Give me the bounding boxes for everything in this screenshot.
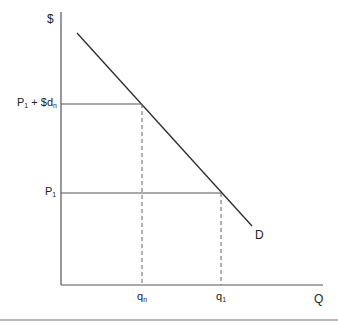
quantity-label-q1-sub: 1	[222, 296, 226, 303]
quantity-label-q1: q1	[216, 291, 226, 302]
price-label-low-sub: 1	[52, 191, 56, 198]
quantity-label-qn-sub: n	[143, 296, 147, 303]
x-axis-label: Q	[314, 293, 323, 305]
price-label-low: P1	[45, 186, 56, 197]
y-axis-label: $	[47, 13, 54, 25]
quantity-label-qn: qn	[137, 291, 147, 302]
demand-diagram	[0, 0, 338, 323]
price-label-high: P1 + $dn	[17, 97, 57, 108]
demand-curve	[77, 33, 252, 226]
price-label-high-sub: 1	[24, 102, 28, 109]
price-label-high-suffix: + $d	[28, 96, 53, 108]
price-label-high-suffix-sub: n	[53, 102, 57, 109]
curve-label: D	[255, 229, 264, 241]
